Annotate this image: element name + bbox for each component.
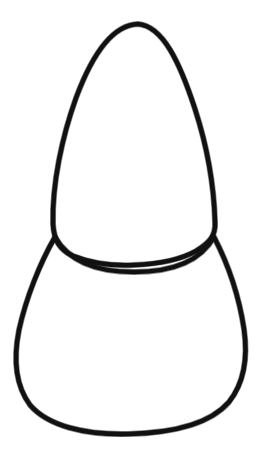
drawing-canvas xyxy=(0,0,263,457)
paper-background xyxy=(0,0,263,457)
line-drawing-svg xyxy=(0,0,263,457)
